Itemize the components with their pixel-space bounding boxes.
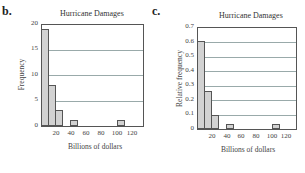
chart-c-ytick: 0.5 xyxy=(178,51,194,59)
chart-c-x-axis-label: Billions of dollars xyxy=(208,145,288,154)
gridline xyxy=(198,42,296,43)
chart-c-ytick: 0.1 xyxy=(178,109,194,117)
chart-c-title: Hurricane Damages xyxy=(219,11,283,20)
bar-20-30 xyxy=(55,110,63,126)
gridline xyxy=(42,101,143,102)
chart-b-xtick: 120 xyxy=(122,129,142,137)
chart-c-ytick: 0.7 xyxy=(178,22,194,30)
gridline xyxy=(198,100,296,101)
bar-100-110 xyxy=(117,120,125,126)
chart-c-ytick: 0.2 xyxy=(178,95,194,103)
bar-40-50 xyxy=(70,120,78,126)
chart-c-ytick: 0.3 xyxy=(178,80,194,88)
chart-c-plot-area xyxy=(197,27,297,130)
bar-20-30 xyxy=(211,115,219,129)
chart-b-ytick: 10 xyxy=(22,70,38,78)
bar-100-110 xyxy=(272,124,280,129)
chart-c-xtick: 120 xyxy=(276,132,296,140)
chart-b-ytick: 20 xyxy=(22,19,38,27)
gridline xyxy=(198,57,296,58)
chart-b-x-axis-label: Billions of dollars xyxy=(55,142,135,151)
gridline xyxy=(42,50,143,51)
chart-b-title: Hurricane Damages xyxy=(60,9,124,18)
chart-b-ytick: 15 xyxy=(22,44,38,52)
chart-b-ytick: 0 xyxy=(22,121,38,129)
chart-c-ytick: 0.4 xyxy=(178,66,194,74)
panel-label-c: c. xyxy=(152,4,160,19)
chart-c-ytick: 0.6 xyxy=(178,37,194,45)
gridline xyxy=(198,71,296,72)
bar-40-50 xyxy=(226,124,234,129)
chart-c-ytick: 0 xyxy=(178,124,194,132)
chart-b-ytick: 5 xyxy=(22,95,38,103)
chart-b-plot-area xyxy=(41,24,144,127)
panel-label-b: b. xyxy=(2,4,12,19)
gridline xyxy=(42,75,143,76)
gridline xyxy=(198,86,296,87)
